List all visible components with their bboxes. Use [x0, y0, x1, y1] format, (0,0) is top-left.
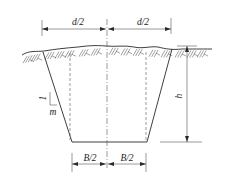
- depth-dimension: h: [160, 46, 202, 142]
- bottom-width-dimension: B/2 B/2: [72, 153, 146, 172]
- hatch-mark: [182, 54, 186, 56]
- depth-label: h: [174, 93, 184, 98]
- bottom-right-width-label: B/2: [120, 153, 133, 163]
- hatch-mark: [55, 52, 59, 59]
- hatch-mark: [94, 48, 98, 55]
- top-width-dimension: d/2 d/2: [42, 17, 171, 36]
- bottom-left-width-label: B/2: [83, 153, 96, 163]
- hatch-mark: [23, 56, 27, 63]
- hatch-mark: [48, 52, 52, 59]
- top-right-width-label: d/2: [137, 17, 149, 27]
- hatch-mark: [38, 58, 42, 60]
- hatch-mark: [82, 49, 86, 56]
- hatch-mark: [204, 54, 208, 56]
- slope-indicator: 1 m: [38, 92, 57, 117]
- hatch-mark: [26, 56, 30, 63]
- hatch-mark: [194, 54, 198, 56]
- hatch-mark: [91, 49, 95, 56]
- slope-rise-label: 1: [38, 96, 48, 101]
- trench-cross-section-diagram: d/2 d/2 h 1 m B/2 B/2: [0, 0, 228, 185]
- hatch-mark: [84, 49, 88, 56]
- hatch-mark: [98, 52, 102, 54]
- trench-profile: [43, 49, 172, 142]
- hatch-mark: [128, 52, 132, 54]
- hatch-mark: [72, 54, 76, 56]
- slope-run-label: m: [50, 107, 57, 117]
- hatch-mark: [68, 51, 72, 58]
- hatch-mark: [96, 48, 100, 55]
- hatch-mark: [58, 51, 62, 58]
- hatch-mark: [50, 52, 54, 59]
- hatch-mark: [70, 50, 74, 57]
- hatch-mark: [86, 53, 90, 55]
- hatch-mark: [156, 53, 160, 55]
- hatch-mark: [140, 52, 144, 54]
- hatch-mark: [34, 54, 38, 61]
- hatch-mark: [65, 51, 69, 58]
- hatch-mark: [116, 51, 120, 53]
- hatch-mark: [36, 54, 40, 61]
- top-left-width-label: d/2: [72, 17, 84, 27]
- hatch-mark: [79, 50, 83, 57]
- hatch-mark: [60, 51, 64, 58]
- hatch-mark: [45, 52, 49, 59]
